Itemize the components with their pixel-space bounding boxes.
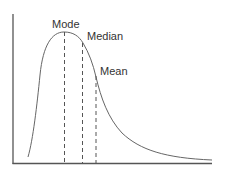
median-label: Median bbox=[87, 30, 123, 42]
distribution-curve bbox=[28, 32, 212, 160]
mean-label: Mean bbox=[100, 65, 128, 77]
mode-label: Mode bbox=[52, 18, 80, 30]
skewed-distribution-diagram: Mode Median Mean bbox=[0, 0, 229, 170]
